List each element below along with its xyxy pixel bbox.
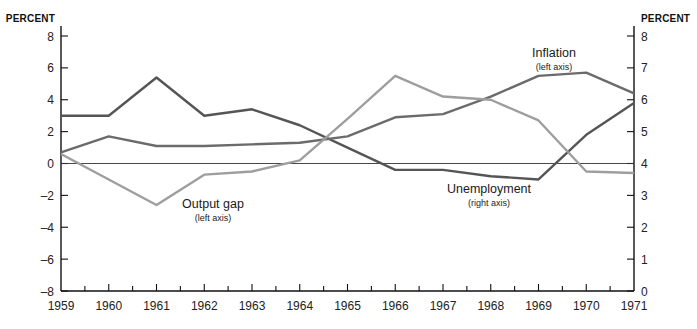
series-line-output-gap [61,76,634,205]
annotation-label: Output gap [182,197,244,211]
left-axis-tick-label: –4 [41,221,55,235]
x-axis-tick-label: 1962 [191,299,218,313]
right-axis-tick-label: 8 [641,30,648,44]
economic-indicators-chart: PERCENTPERCENT86420–2–4–6–88765432101959… [0,0,697,329]
right-axis-title: PERCENT [641,13,690,24]
x-axis-tick-label: 1960 [95,299,122,313]
left-axis-tick-label: 0 [47,157,54,171]
x-axis-tick-label: 1965 [334,299,361,313]
annotation-label: Unemployment [447,182,532,196]
chart-svg: PERCENTPERCENT86420–2–4–6–88765432101959… [0,0,697,329]
x-axis-tick-label: 1963 [239,299,266,313]
annotation-sublabel: (left axis) [536,62,573,72]
annotation-inflation: Inflation(left axis) [532,46,576,72]
x-axis-tick-label: 1969 [525,299,552,313]
left-axis-tick-label: 4 [47,93,54,107]
left-axis-tick-label: –8 [41,285,55,299]
x-axis-tick-label: 1970 [573,299,600,313]
annotation-output-gap: Output gap(left axis) [182,197,244,223]
x-axis-tick-label: 1968 [477,299,504,313]
annotation-unemployment: Unemployment(right axis) [447,182,532,208]
annotation-sublabel: (left axis) [195,213,232,223]
left-axis-tick-label: 2 [47,125,54,139]
right-axis-tick-label: 6 [641,93,648,107]
annotation-sublabel: (right axis) [468,198,510,208]
left-axis-tick-label: 6 [47,61,54,75]
left-axis-tick-label: 8 [47,30,54,44]
right-axis-tick-label: 3 [641,189,648,203]
right-axis-tick-label: 2 [641,221,648,235]
annotation-label: Inflation [532,46,576,60]
right-axis-tick-label: 5 [641,125,648,139]
left-axis-title: PERCENT [6,13,55,24]
left-axis-tick-label: –2 [41,189,55,203]
x-axis-tick-label: 1964 [286,299,313,313]
right-axis-tick-label: 0 [641,285,648,299]
x-axis-tick-label: 1959 [48,299,75,313]
x-axis-tick-label: 1966 [382,299,409,313]
right-axis-tick-label: 7 [641,61,648,75]
series-line-unemployment [61,77,634,179]
x-axis-tick-label: 1967 [430,299,457,313]
x-axis-tick-label: 1961 [143,299,170,313]
left-axis-tick-label: –6 [41,253,55,267]
x-axis-tick-label: 1971 [621,299,648,313]
right-axis-tick-label: 1 [641,253,648,267]
right-axis-tick-label: 4 [641,157,648,171]
